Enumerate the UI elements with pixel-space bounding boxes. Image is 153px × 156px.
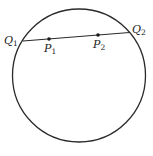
diagram-canvas: Q1 Q2 P1 P2 xyxy=(0,0,153,156)
chord-q1-q2 xyxy=(23,33,130,42)
point-p2-dot xyxy=(96,33,100,37)
label-q1: Q1 xyxy=(4,34,18,48)
diagram-svg: Q1 Q2 P1 P2 xyxy=(0,0,153,156)
label-q2: Q2 xyxy=(132,23,146,37)
point-p1-dot xyxy=(47,37,51,41)
label-p2: P2 xyxy=(92,38,105,52)
label-p1: P1 xyxy=(43,42,56,56)
circle xyxy=(13,9,146,142)
